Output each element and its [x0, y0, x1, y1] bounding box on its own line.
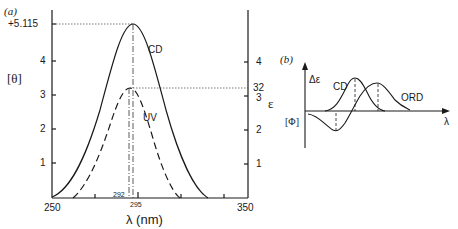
left-tick-4: 4	[40, 56, 46, 66]
x-end-label: 350	[237, 203, 254, 213]
b-cd-label: CD	[333, 82, 347, 92]
b-lambda-label: λ	[444, 117, 449, 127]
x-292-label: 292	[113, 191, 125, 198]
b-x-arrow-icon	[442, 108, 450, 114]
b-y-arrow-icon	[302, 62, 308, 70]
x-axis-label: λ (nm)	[126, 213, 163, 226]
panel-b-label: (b)	[280, 54, 293, 65]
right-tick-4: 4	[256, 57, 262, 67]
right-y-label: ε	[268, 97, 273, 110]
cd-series-label: CD	[148, 45, 162, 55]
panel-b	[302, 62, 450, 148]
right-tick-2: 2	[256, 125, 262, 135]
left-tick-3: 3	[40, 90, 46, 100]
b-ord-label: ORD	[401, 93, 423, 103]
panel-a-label: (a)	[4, 6, 17, 17]
guide-lines	[56, 24, 248, 88]
right-tick-3: 3	[256, 93, 262, 103]
right-tick-1: 1	[256, 159, 262, 169]
b-delta-eps-label: Δε	[309, 75, 320, 85]
peak-markers	[129, 24, 133, 198]
b-ord-curve	[308, 83, 410, 131]
panel-a-axes	[52, 10, 248, 198]
left-tick-2: 2	[40, 124, 46, 134]
x-start-label: 250	[44, 203, 61, 213]
b-phi-label: [Φ]	[285, 117, 299, 127]
uv-series-label: UV	[143, 113, 157, 123]
left-tick-1: 1	[40, 158, 46, 168]
x-295-label: 295	[130, 201, 142, 208]
cd-peak-value: +5.115	[8, 19, 38, 29]
left-y-label: [θ]	[7, 72, 22, 85]
cd-curve	[52, 24, 208, 198]
chart-canvas	[0, 0, 458, 229]
